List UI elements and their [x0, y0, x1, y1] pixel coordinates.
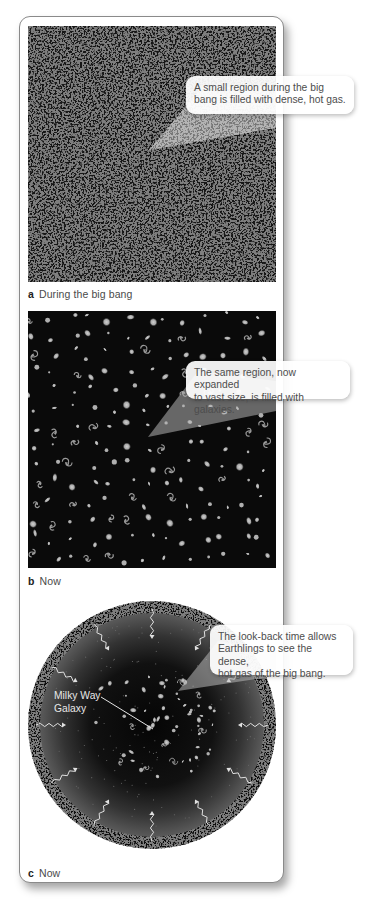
- caption-a: aDuring the big bang: [28, 288, 133, 300]
- callout-c-line-3: hot gas of the big bang.: [218, 668, 345, 680]
- callout-c: The look-back time allows Earthlings to …: [210, 625, 353, 675]
- caption-a-text: During the big bang: [39, 288, 133, 300]
- galaxy-field: [28, 311, 276, 568]
- milky-way-label-line-1: Milky Way: [54, 690, 101, 703]
- caption-a-letter: a: [28, 288, 34, 300]
- callout-b: The same region, now expanded to vast si…: [186, 361, 350, 399]
- callout-a-line-2: bang is filled with dense, hot gas.: [194, 94, 346, 106]
- gas-noise-texture: [28, 26, 276, 282]
- callout-a: A small region during the big bang is fi…: [186, 76, 354, 114]
- caption-c: cNow: [28, 867, 60, 879]
- panel-a-big-bang-image: [28, 26, 276, 282]
- milky-way-galaxy-label: Milky Way Galaxy: [54, 690, 101, 715]
- callout-c-line-1: The look-back time allows: [218, 631, 345, 643]
- callout-a-line-1: A small region during the big: [194, 82, 346, 94]
- caption-b-text: Now: [40, 575, 61, 587]
- caption-b-letter: b: [28, 575, 35, 587]
- caption-c-letter: c: [28, 867, 34, 879]
- caption-c-text: Now: [39, 867, 60, 879]
- callout-b-line-2: to vast size, is filled with galaxies.: [194, 392, 342, 417]
- callout-b-line-1: The same region, now expanded: [194, 367, 342, 392]
- panel-b-galaxies-image: [28, 311, 276, 568]
- milky-way-label-line-2: Galaxy: [54, 703, 101, 716]
- callout-c-line-2: Earthlings to see the dense,: [218, 643, 345, 668]
- caption-b: bNow: [28, 575, 61, 587]
